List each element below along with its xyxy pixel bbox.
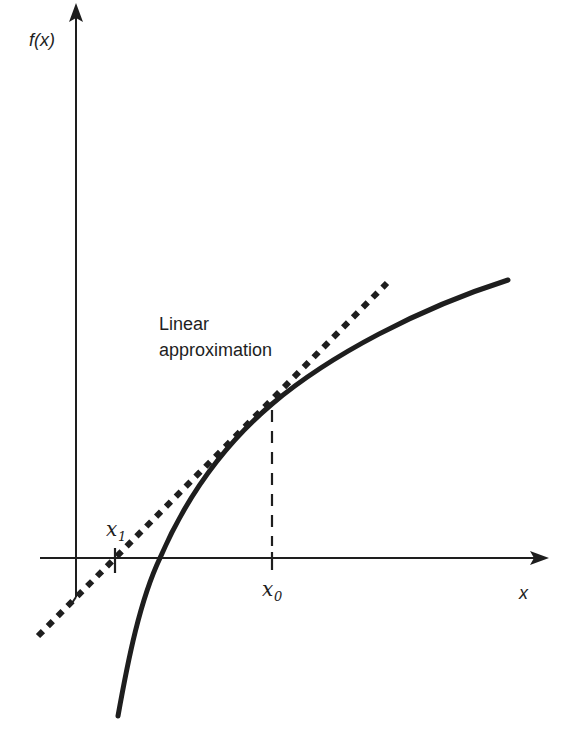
svg-text:x: x [262, 577, 273, 601]
svg-text:x: x [106, 517, 117, 541]
linear-approximation-label-line2: approximation [159, 340, 272, 360]
x-axis-label: x [518, 583, 529, 603]
y-axis [69, 3, 83, 597]
svg-text:1: 1 [118, 529, 126, 544]
x1-label: x 1 [106, 517, 126, 544]
svg-text:0: 0 [274, 589, 282, 604]
y-axis-label: f(x) [29, 30, 55, 50]
x0-label: x 0 [262, 577, 282, 604]
newton-method-diagram: f(x) x Linear approximation x 0 x 1 [0, 0, 566, 751]
tangent-line [38, 283, 387, 636]
linear-approximation-label-line1: Linear [159, 314, 209, 334]
